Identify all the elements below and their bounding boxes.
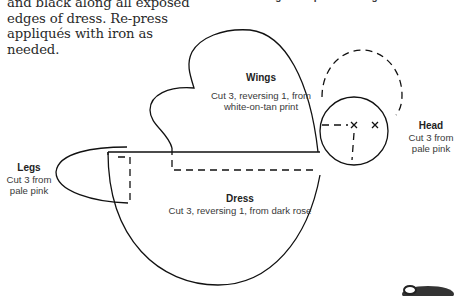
- wings-line-2: white-on-tan print: [196, 101, 326, 113]
- decorative-graphic-icon: [398, 276, 458, 296]
- wings-label: Wings Cut 3, reversing 1, from white-on-…: [196, 72, 326, 113]
- halo-dashed-outline: [322, 50, 402, 115]
- dress-title: Dress: [140, 193, 340, 205]
- dress-label: Dress Cut 3, reversing 1, from dark rose: [140, 193, 340, 216]
- dress-outline: [108, 152, 320, 285]
- head-outline: [320, 97, 388, 165]
- legs-outline: [56, 147, 128, 203]
- placement-marks: [351, 122, 378, 128]
- dress-line-1: Cut 3, reversing 1, from dark rose: [140, 205, 340, 217]
- legs-title: Legs: [0, 162, 58, 174]
- head-label: Head Cut 3 from pale pink: [400, 120, 458, 155]
- legs-label: Legs Cut 3 from pale pink: [0, 162, 58, 197]
- legs-line-2: pale pink: [0, 185, 58, 197]
- wings-placement-dashed: [172, 148, 318, 170]
- wings-title: Wings: [196, 72, 326, 84]
- wings-line-1: Cut 3, reversing 1, from: [196, 90, 326, 102]
- legs-placement-dashed: [118, 157, 130, 203]
- head-line-1: Cut 3 from: [400, 132, 458, 144]
- head-title: Head: [400, 120, 458, 132]
- head-line-2: pale pink: [400, 143, 458, 155]
- legs-line-1: Cut 3 from: [0, 174, 58, 186]
